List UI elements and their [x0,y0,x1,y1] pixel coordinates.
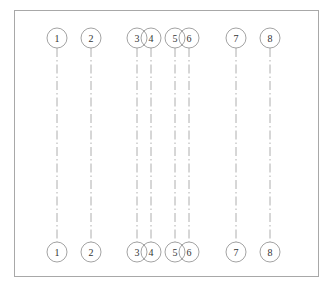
axis-label: 4 [149,247,154,258]
axis-label: 4 [149,33,154,44]
grid-axis-2: 22 [81,28,101,262]
axis-label: 7 [234,247,239,258]
axis-label: 2 [89,247,94,258]
grid-axis-7: 77 [226,28,246,262]
axis-label: 1 [55,33,60,44]
axis-label: 8 [268,33,273,44]
axis-label: 7 [234,33,239,44]
drawing-frame [15,11,319,277]
grid-axis-4: 44 [141,28,161,262]
axis-label: 6 [187,247,192,258]
grid-axis-8: 88 [260,28,280,262]
axis-label: 3 [135,247,140,258]
axis-label: 5 [173,33,178,44]
grid-axis-diagram: 1122334455667788 [0,0,329,295]
grid-axis-1: 11 [47,28,67,262]
axis-label: 3 [135,33,140,44]
grid-axes: 1122334455667788 [47,28,280,262]
grid-axis-3: 33 [127,28,147,262]
axis-label: 2 [89,33,94,44]
axis-label: 5 [173,247,178,258]
axis-label: 8 [268,247,273,258]
grid-axis-6: 66 [179,28,199,262]
grid-axis-5: 55 [165,28,185,262]
axis-label: 6 [187,33,192,44]
axis-label: 1 [55,247,60,258]
